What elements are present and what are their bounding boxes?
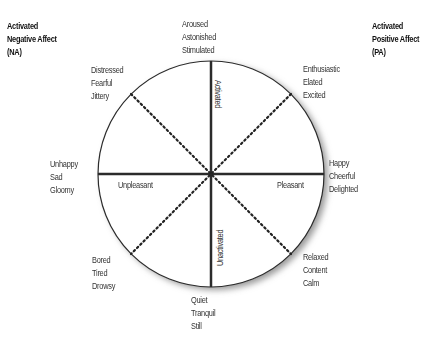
axis-label-activated: Activated bbox=[213, 80, 223, 108]
axis-label-unpleasant: Unpleasant bbox=[118, 180, 153, 190]
axis-label-pleasant: Pleasant bbox=[277, 180, 304, 190]
corner-label-pa: Activated Positive Affect (PA) bbox=[372, 20, 419, 59]
axis-label-unactivated: Unactivated bbox=[215, 230, 225, 266]
octant-top-left: Distressed Fearful Jittery bbox=[91, 64, 123, 103]
octant-bottom-left: Bored Tired Drowsy bbox=[92, 254, 115, 293]
octant-right: Happy Cheerful Delighted bbox=[329, 157, 358, 196]
octant-top-right: Enthusiastic Elated Excited bbox=[303, 63, 340, 102]
octant-bottom: Quiet Tranquil Still bbox=[191, 294, 215, 333]
corner-label-na: Activated Negative Affect (NA) bbox=[7, 20, 57, 59]
octant-bottom-right: Relaxed Content Calm bbox=[303, 251, 328, 290]
octant-top: Aroused Astonished Stimulated bbox=[182, 18, 216, 57]
octant-left: Unhappy Sad Gloomy bbox=[50, 158, 78, 197]
